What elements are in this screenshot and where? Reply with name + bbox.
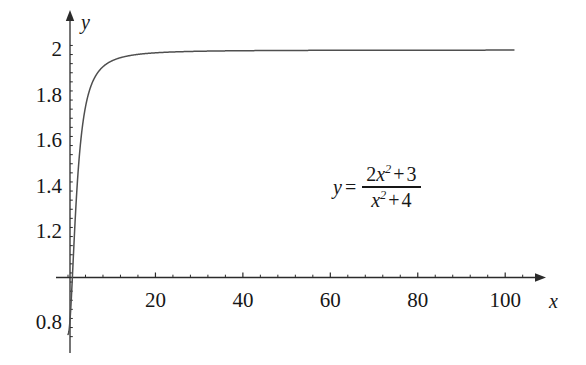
denominator-operator: + xyxy=(386,189,401,211)
x-tick-label: 20 xyxy=(115,290,195,311)
equation-equals-sign: = xyxy=(345,176,356,199)
equation-fraction: 2x2+3 x2+4 xyxy=(362,163,420,211)
x-tick-label: 100 xyxy=(465,290,545,311)
fraction-bar xyxy=(362,186,420,188)
y-tick-label: 0.8 xyxy=(36,312,62,333)
numerator-operator: + xyxy=(391,163,406,185)
y-axis-label: y xyxy=(81,12,90,32)
numerator-coefficient: 2 xyxy=(366,163,376,185)
numerator-constant: 3 xyxy=(407,163,417,185)
chart-canvas: 21.81.61.41.20.8 20406080100 y x y = 2x2… xyxy=(0,0,586,365)
y-tick-label: 1.2 xyxy=(36,221,62,242)
equation-annotation: y = 2x2+3 x2+4 xyxy=(333,163,421,211)
equation-numerator: 2x2+3 xyxy=(362,163,420,185)
numerator-variable: x xyxy=(376,163,385,185)
y-tick-label: 1.8 xyxy=(36,85,62,106)
denominator-variable: x xyxy=(371,189,380,211)
x-tick-label: 80 xyxy=(378,290,458,311)
y-tick-label: 2 xyxy=(52,39,63,60)
x-tick-label: 40 xyxy=(203,290,283,311)
y-tick-label: 1.6 xyxy=(36,130,62,151)
denominator-constant: 4 xyxy=(402,189,412,211)
y-tick-label: 1.4 xyxy=(36,176,62,197)
equation-denominator: x2+4 xyxy=(367,189,415,211)
x-tick-label: 60 xyxy=(290,290,370,311)
x-axis-label: x xyxy=(549,291,558,311)
equation-lhs: y xyxy=(333,176,342,199)
